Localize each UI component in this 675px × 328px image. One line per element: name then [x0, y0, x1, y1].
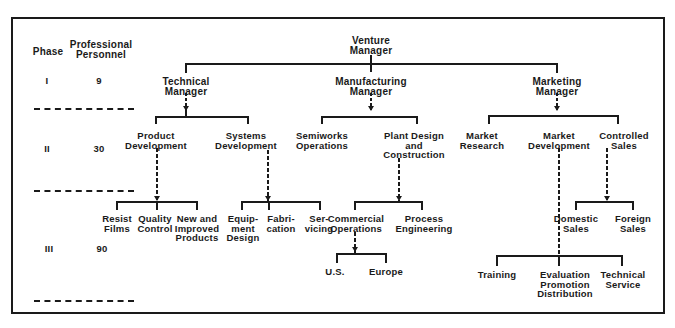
training: Training: [478, 270, 517, 280]
personnel-header: Professional Personnel: [70, 40, 132, 60]
quality-control: Quality Control: [137, 214, 172, 233]
evaluation-promotion-distribution: Evaluation Promotion Distribution: [537, 270, 593, 299]
technical-service: Technical Service: [601, 270, 646, 289]
commercial-operations: Commercial Operations: [328, 214, 384, 233]
marketing-manager: Marketing Manager: [532, 77, 581, 97]
resist-films: Resist Films: [102, 214, 132, 233]
phase-header: Phase: [33, 47, 63, 57]
market-development: Market Development: [528, 131, 590, 150]
personnel-2: 30: [94, 144, 105, 154]
equipment-design: Equip- ment Design: [227, 214, 260, 243]
phase-1: I: [46, 76, 49, 86]
phase-divider-1: [34, 108, 134, 110]
phase-2: II: [44, 144, 50, 154]
controlled-sales: Controlled Sales: [599, 131, 649, 150]
personnel-1: 9: [96, 76, 101, 86]
phase-divider-3: [34, 300, 134, 302]
semiworks-operations: Semiworks Operations: [296, 131, 348, 150]
us: U.S.: [325, 267, 344, 277]
domestic-sales: Domestic Sales: [554, 214, 598, 233]
personnel-3: 90: [97, 244, 108, 254]
market-research: Market Research: [460, 131, 504, 150]
technical-manager: Technical Manager: [162, 77, 209, 97]
phase-3: III: [45, 244, 54, 254]
foreign-sales: Foreign Sales: [615, 214, 651, 233]
new-improved-products: New and Improved Products: [175, 214, 219, 243]
product-development: Product Development: [125, 131, 187, 150]
process-engineering: Process Engineering: [395, 214, 452, 233]
venture-manager: Venture Manager: [350, 36, 393, 56]
fabrication: Fabri- cation: [266, 214, 295, 233]
manufacturing-manager: Manufacturing Manager: [335, 77, 407, 97]
phase-divider-2: [34, 190, 134, 192]
europe: Europe: [369, 267, 403, 277]
plant-design-construction: Plant Design and Construction: [383, 131, 445, 160]
systems-development: Systems Development: [215, 131, 277, 150]
